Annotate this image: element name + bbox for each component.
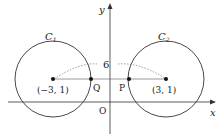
point-q-label: Q bbox=[93, 83, 100, 93]
distance-label: 6 bbox=[103, 59, 109, 70]
x-axis-arrow-icon bbox=[210, 100, 216, 105]
point-q-dot bbox=[89, 77, 93, 81]
center-c2-dot bbox=[164, 77, 168, 81]
diagram: x y O 6 (−3, 1) (3, 1) Q P C1 C2 bbox=[0, 0, 220, 136]
point-p-label: P bbox=[119, 83, 125, 93]
circle-c2-label: C2 bbox=[158, 31, 170, 43]
distance-arc-left bbox=[54, 64, 98, 79]
center-c2-label: (3, 1) bbox=[152, 85, 176, 95]
x-axis-label: x bbox=[210, 107, 216, 118]
point-p-dot bbox=[127, 77, 131, 81]
circle-c1-label: C1 bbox=[45, 31, 56, 43]
center-c1-dot bbox=[51, 77, 55, 81]
center-c1-label: (−3, 1) bbox=[37, 85, 69, 95]
y-axis-arrow-icon bbox=[108, 3, 113, 9]
y-axis-label: y bbox=[98, 4, 105, 15]
origin-label: O bbox=[99, 106, 106, 116]
distance-arc-right bbox=[118, 64, 166, 79]
